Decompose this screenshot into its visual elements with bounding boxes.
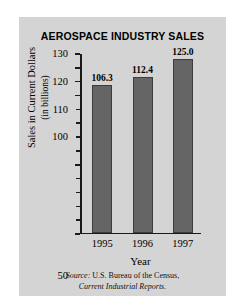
y-axis-tick [76, 150, 80, 152]
y-axis-tick [76, 192, 80, 194]
x-axis-tick-label: 1997 [172, 238, 193, 249]
y-axis-line [80, 54, 82, 234]
y-axis-tick-label: 110 [53, 103, 68, 114]
y-axis-tick: 50 [75, 164, 80, 166]
bar-value-label: 106.3 [91, 73, 112, 83]
y-axis-tick [76, 136, 80, 138]
source-line2: Current Industrial Reports. [79, 282, 166, 291]
x-axis-title: Year [80, 255, 201, 267]
bar: 112.41996 [133, 77, 153, 233]
x-axis-tick-label: 1995 [92, 238, 113, 249]
source-line1: U.S. Bureau of the Census, [90, 271, 179, 280]
plot-area: 050100110120130 106.31995112.41996125.01… [80, 54, 201, 234]
y-axis-tick-label: 120 [52, 75, 68, 86]
y-axis-tick [76, 219, 80, 221]
y-axis-tick: 130 [75, 53, 80, 55]
y-axis-tick: 100 [75, 95, 80, 97]
x-axis-tick-label: 1996 [132, 238, 153, 249]
y-axis-title: Sales in Current Dollars (in billions) [26, 13, 51, 183]
x-axis-line [80, 233, 201, 235]
y-axis-tick: 110 [75, 81, 80, 83]
y-axis-tick: 120 [75, 67, 80, 69]
bar: 125.01997 [173, 59, 193, 232]
y-axis-tick [76, 178, 80, 180]
bar: 106.31995 [92, 85, 112, 232]
bar-value-label: 125.0 [172, 47, 193, 57]
y-axis-tick [76, 206, 80, 208]
y-axis-tick-label: 100 [52, 131, 68, 142]
source-note: Source: U.S. Bureau of the Census, Curre… [19, 270, 226, 292]
y-axis-tick: 0 [75, 233, 80, 235]
chart-figure: AEROSPACE INDUSTRY SALES Sales in Curren… [19, 17, 226, 296]
source-label: Source: [66, 271, 91, 280]
y-axis-tick [76, 122, 80, 124]
y-axis-title-line2: (in billions) [39, 75, 49, 120]
bar-value-label: 112.4 [132, 65, 153, 75]
y-axis-tick [76, 109, 80, 111]
y-axis-title-line1: Sales in Current Dollars [26, 47, 37, 148]
y-axis-tick-label: 130 [52, 48, 68, 59]
